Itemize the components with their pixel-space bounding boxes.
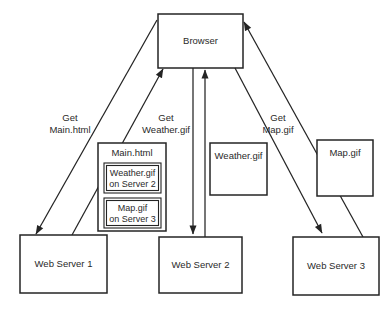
- web-server-3-label: Web Server 3: [307, 260, 365, 271]
- browser-label: Browser: [183, 35, 218, 46]
- get-weather-gif-label-line2: Weather.gif: [142, 124, 190, 135]
- diagram-canvas: Main.html Weather.gif on Server 2 Map.gi…: [0, 0, 392, 314]
- diagram-figure: Main.html Weather.gif on Server 2 Map.gi…: [0, 0, 392, 314]
- get-map-gif-label-line1: Get: [270, 112, 286, 123]
- map-gif-label: Map.gif: [329, 147, 361, 158]
- get-map-gif-label-line2: Map.gif: [262, 124, 294, 135]
- get-weather-gif-label-line1: Get: [158, 112, 174, 123]
- weather-gif-ref-line1: Weather.gif: [110, 168, 156, 178]
- web-server-2-label: Web Server 2: [172, 259, 230, 270]
- map-gif-ref-line1: Map.gif: [118, 203, 148, 213]
- weather-gif-ref-line2: on Server 2: [109, 179, 156, 189]
- get-main-html-label-line2: Main.html: [49, 124, 90, 135]
- map-gif-ref-line2: on Server 3: [109, 214, 156, 224]
- main-html-label: Main.html: [111, 147, 152, 158]
- web-server-1-label: Web Server 1: [35, 258, 93, 269]
- weather-gif-label: Weather.gif: [215, 150, 263, 161]
- get-main-html-label-line1: Get: [62, 112, 78, 123]
